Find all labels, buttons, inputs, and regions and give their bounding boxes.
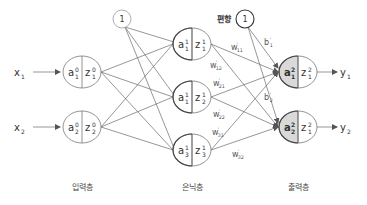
hidden-node-2: a11z12 xyxy=(173,81,211,113)
output-label-y1: y1 xyxy=(340,67,351,80)
nodes: a01z01a02z02a11z11a11z12a13z13a21z21a22z… xyxy=(63,10,317,166)
input-node-1: a01z01 xyxy=(63,56,101,88)
activation-label: a11 xyxy=(178,38,189,53)
output-node-1: a21z21 xyxy=(279,56,317,88)
input-hidden-edge xyxy=(101,44,173,72)
activation-label: a11 xyxy=(178,91,189,106)
bias-hidden-edge xyxy=(125,27,174,42)
layer-label-output: 출력층 xyxy=(288,182,309,192)
bias-output-edge xyxy=(248,27,278,68)
weight-label-11: w'11 xyxy=(231,42,243,53)
bias-hidden-edge xyxy=(125,27,174,95)
bias-hidden-edge xyxy=(125,27,174,148)
layer-label-hidden: 은닉층 xyxy=(182,183,203,192)
input-label-x1: x1 xyxy=(14,67,25,80)
input-hidden-edge xyxy=(101,97,173,127)
output-label-y2: y2 xyxy=(340,122,351,135)
weight-label-21: w'21 xyxy=(213,78,225,89)
bias-weight-label-2: b'2 xyxy=(264,92,273,103)
input-node-2: a02z02 xyxy=(63,111,101,143)
activation-label: a21 xyxy=(284,66,295,81)
input-hidden-edge xyxy=(101,72,173,97)
layer-label-input: 입력층 xyxy=(72,182,93,192)
activation-label: a13 xyxy=(178,144,189,159)
z-label: z01 xyxy=(85,66,96,81)
z-label: z21 xyxy=(301,121,312,136)
z-label: z02 xyxy=(85,121,96,136)
z-label: z12 xyxy=(195,91,206,106)
z-label: z13 xyxy=(195,144,206,159)
weight-label-12: w'12 xyxy=(210,60,222,71)
bias-caption: 편향 xyxy=(217,14,232,24)
labels: x1x2y1y2w'11w'12w'21w'22w'31w'32b'1b'2입력… xyxy=(14,37,351,192)
neural-network-diagram: a01z01a02z02a11z11a11z12a13z13a21z21a22z… xyxy=(0,0,367,205)
bias-value: 1 xyxy=(119,15,124,24)
activation-label: a22 xyxy=(284,121,295,136)
activation-label: a02 xyxy=(68,121,79,136)
bias-node-2: 1편향 xyxy=(217,10,254,28)
z-label: z21 xyxy=(301,66,312,81)
weight-label-22: w'22 xyxy=(213,109,225,120)
z-label: z11 xyxy=(195,38,206,53)
output-node-2: a22z21 xyxy=(279,111,317,143)
input-label-x2: x2 xyxy=(14,122,25,135)
activation-label: a01 xyxy=(68,66,79,81)
hidden-node-1: a11z11 xyxy=(173,28,211,60)
weight-label-32: w'32 xyxy=(232,149,244,160)
weight-label-31: w'31 xyxy=(212,127,224,138)
bias-node-1: 1 xyxy=(113,10,131,28)
bias-value: 1 xyxy=(242,15,247,24)
hidden-node-3: a13z13 xyxy=(173,134,211,166)
bias-weight-label-1: b'1 xyxy=(264,37,273,48)
